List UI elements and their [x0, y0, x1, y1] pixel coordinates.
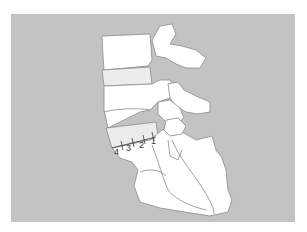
vertebral-body-upper — [102, 34, 152, 70]
marker-label-1: 1 — [151, 136, 156, 146]
articular-process-lower — [164, 118, 186, 136]
lumbar-spine-illustration: 4 3 2 1 — [0, 0, 307, 232]
spinous-process-upper — [152, 24, 206, 68]
marker-label-4: 4 — [114, 147, 119, 157]
marker-label-3: 3 — [126, 143, 131, 153]
intervertebral-disc-upper — [102, 67, 152, 86]
marker-label-2: 2 — [139, 140, 144, 150]
